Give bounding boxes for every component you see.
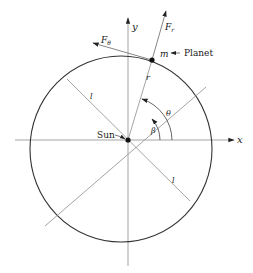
x-axis-label: x [237, 134, 243, 145]
planet-label: Planet [184, 48, 213, 58]
radial-force-label: Fr [164, 22, 175, 33]
semi-latus-label-lower: l [172, 176, 175, 185]
orbit-ellipse [30, 56, 212, 242]
radius-label: r [146, 73, 151, 82]
y-axis-label: y [131, 21, 138, 32]
beta-label: β [150, 126, 156, 135]
tangential-force-label: Fθ [100, 35, 111, 46]
sun-label: Sun [97, 130, 115, 140]
theta-arc [142, 99, 172, 140]
periapsis-direction-line [45, 87, 206, 226]
orbit-diagram: x y Fr Fθ m Planet Sun r θ β l l [0, 0, 253, 273]
radius-line [128, 60, 152, 140]
mass-label: m [160, 49, 169, 59]
semi-latus-label-upper: l [90, 92, 93, 101]
tangential-force-vector [93, 43, 152, 60]
theta-label: θ [166, 109, 171, 118]
sun-point [125, 137, 130, 142]
planet-point [149, 57, 154, 62]
